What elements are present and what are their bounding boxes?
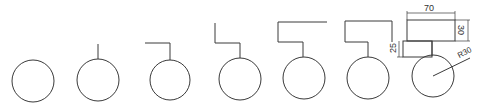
dim-middle-height-label: 25 bbox=[388, 43, 398, 53]
step-1-figure bbox=[12, 60, 54, 102]
step-5-figure bbox=[278, 22, 327, 99]
diagram-canvas: 70 30 25 R30 bbox=[0, 0, 483, 110]
step-6-figure bbox=[345, 21, 392, 99]
dim-top-width-label: 70 bbox=[424, 3, 434, 13]
step-4-figure bbox=[215, 23, 261, 100]
step-2-figure bbox=[77, 44, 119, 101]
step-3-figure bbox=[145, 43, 190, 100]
dim-top-height-label: 30 bbox=[456, 25, 466, 35]
